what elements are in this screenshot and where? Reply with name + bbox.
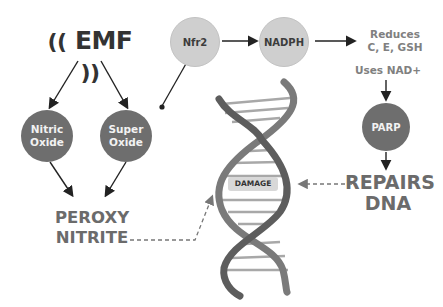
node-nitric-oxide: Nitric Oxide bbox=[21, 110, 73, 162]
peroxy-nitrite-label: PEROXY NITRITE bbox=[48, 208, 136, 248]
reduces-line-1: Reduces bbox=[355, 28, 435, 41]
node-nfr2: Nfr2 bbox=[170, 17, 220, 67]
line-nfr2-super bbox=[162, 62, 187, 106]
emf-label-group: (( EMF )) bbox=[38, 26, 142, 88]
arrow-nitric-peroxy bbox=[50, 162, 72, 195]
damage-badge: DAMAGE bbox=[228, 177, 278, 191]
uses-nad-label: Uses NAD+ bbox=[350, 64, 426, 76]
repairs-dna-label: REPAIRS DNA bbox=[345, 172, 431, 214]
node-nadph: NADPH bbox=[259, 17, 309, 67]
peroxy-text: PEROXY bbox=[48, 208, 136, 228]
node-super-oxide: Super Oxide bbox=[100, 110, 152, 162]
arrow-super-peroxy bbox=[106, 162, 126, 195]
connector-dot bbox=[159, 104, 164, 109]
node-parp: PARP bbox=[362, 103, 410, 151]
emf-label: EMF bbox=[75, 26, 133, 55]
dashed-arrow-peroxy-damage bbox=[130, 197, 212, 240]
nitrite-text: NITRITE bbox=[48, 228, 136, 248]
reduces-line-2: C, E, GSH bbox=[355, 41, 435, 54]
emf-wave-right-icon: )) bbox=[80, 60, 99, 85]
emf-wave-left-icon: (( bbox=[48, 29, 67, 54]
dna-text: DNA bbox=[345, 193, 431, 214]
reduces-label: Reduces C, E, GSH bbox=[355, 28, 435, 54]
repairs-text: REPAIRS bbox=[345, 172, 431, 193]
